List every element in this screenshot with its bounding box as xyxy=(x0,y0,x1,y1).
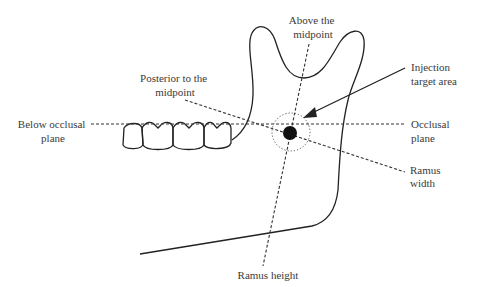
tooth-1 xyxy=(123,124,143,149)
label-below-occlusal: Below occlusal plane xyxy=(18,118,88,144)
label-injection-target: Injection target area xyxy=(411,61,457,87)
label-ramus-height: Ramus height xyxy=(238,269,299,281)
ramus-injection-diagram: Above the midpoint Posterior to the midp… xyxy=(0,0,481,287)
teeth xyxy=(123,122,231,149)
label-posterior-midpoint: Posterior to the midpoint xyxy=(140,72,210,98)
tooth-3 xyxy=(173,122,204,149)
label-above-midpoint: Above the midpoint xyxy=(289,14,337,40)
tooth-4 xyxy=(204,122,231,148)
target-dot xyxy=(283,126,297,140)
target-arrow-shaft xyxy=(310,68,405,114)
label-occlusal-plane: Occlusal plane xyxy=(411,118,452,144)
arrow-head-icon xyxy=(303,107,317,118)
label-ramus-width: Ramus width xyxy=(410,164,443,189)
tooth-2 xyxy=(142,122,173,149)
